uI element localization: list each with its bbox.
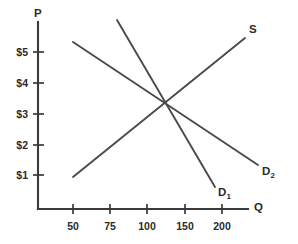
curve-label-d2: D2 — [262, 166, 275, 178]
y-tick-label-3: $3 — [0, 109, 28, 120]
x-tick-label-200: 200 — [204, 221, 240, 232]
y-axis-label-p: P — [34, 8, 42, 20]
curve-label-d1: D1 — [218, 187, 231, 199]
x-tick-label-50: 50 — [55, 221, 91, 232]
demand-curve-d2 — [73, 42, 258, 165]
x-tick-label-150: 150 — [167, 221, 203, 232]
curve-label-s-text: S — [249, 23, 257, 35]
x-tick-label-75: 75 — [92, 221, 128, 232]
x-axis-label-q: Q — [254, 202, 263, 214]
curve-label-d2-text: D — [262, 165, 270, 177]
curve-label-d1-text: D — [218, 186, 226, 198]
y-tick-label-1: $1 — [0, 170, 28, 181]
y-tick-label-5: $5 — [0, 47, 28, 58]
curve-label-d2-subscript: 2 — [271, 171, 275, 180]
y-tick-label-2: $2 — [0, 140, 28, 151]
x-tick-label-100: 100 — [129, 221, 165, 232]
y-tick-label-4: $4 — [0, 78, 28, 89]
curve-label-s: S — [249, 24, 257, 36]
curve-label-d1-subscript: 1 — [227, 192, 231, 201]
supply-demand-chart: P Q $1 $2 $3 $4 $5 50 75 100 150 200 S D… — [0, 0, 298, 244]
